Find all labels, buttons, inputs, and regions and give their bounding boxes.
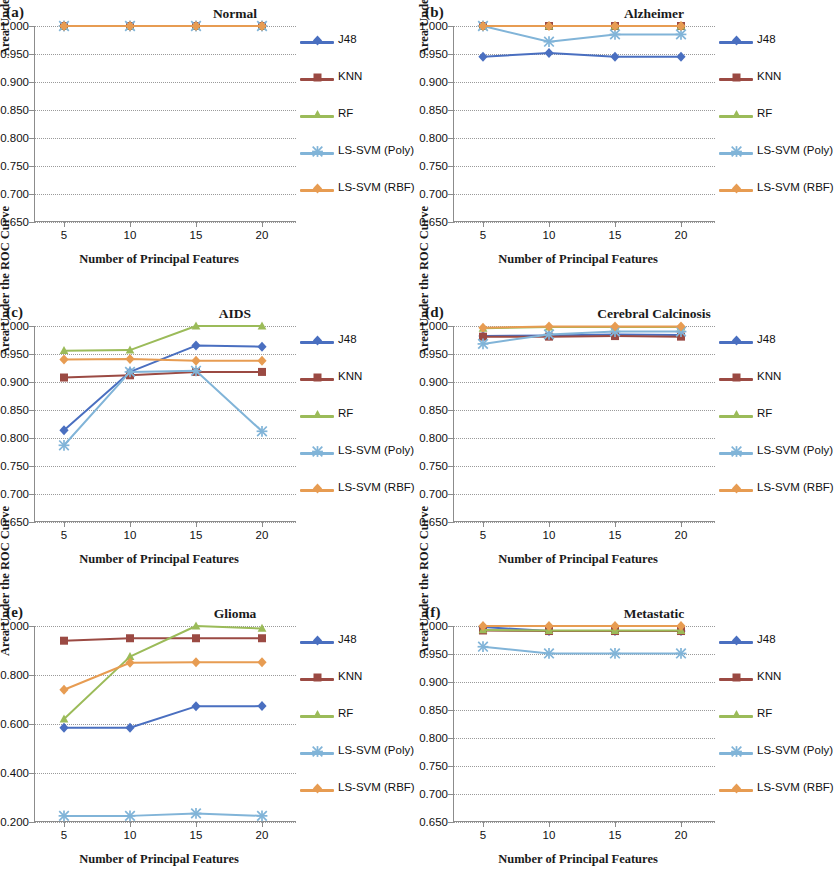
legend-label: RF	[338, 707, 353, 719]
y-tick-label: 0.950	[419, 648, 448, 660]
y-tick-mark	[29, 522, 35, 523]
legend-item-knn[interactable]: KNN	[300, 669, 418, 706]
legend-marker-triangle-icon	[731, 709, 742, 720]
series-knn	[60, 368, 266, 382]
legend-item-rf[interactable]: RF	[300, 106, 418, 143]
legend-item-knn[interactable]: KNN	[300, 369, 418, 406]
y-tick-label: 0.750	[0, 160, 29, 172]
legend-item-j48[interactable]: J48	[300, 632, 418, 669]
y-tick-label: 1.000	[419, 20, 448, 32]
y-tick-label: 0.800	[0, 432, 29, 444]
legend-item-ls-svm-poly[interactable]: LS-SVM (Poly)	[719, 143, 837, 180]
legend-item-rf[interactable]: RF	[300, 406, 418, 443]
legend-item-ls-svm-rbf[interactable]: LS-SVM (RBF)	[719, 180, 837, 217]
series-j48	[478, 48, 685, 62]
gridline	[34, 822, 296, 823]
legend-item-rf[interactable]: RF	[719, 406, 837, 443]
legend-item-rf[interactable]: RF	[719, 706, 837, 743]
series-j48	[59, 341, 266, 436]
legend-item-j48[interactable]: J48	[300, 32, 418, 69]
x-axis-label: Number of Principal Features	[447, 852, 709, 867]
x-tick-label: 20	[675, 829, 688, 841]
figure-sheet: (a)NormalArea Under the ROC Curve0.6500.…	[0, 0, 837, 893]
legend: J48KNNRFLS-SVM (Poly)LS-SVM (RBF)	[300, 332, 418, 517]
legend-label: RF	[338, 407, 353, 419]
y-tick-label: 0.650	[419, 816, 448, 828]
legend-label: KNN	[338, 670, 362, 682]
y-tick-mark	[448, 222, 454, 223]
plot-area: 0.2000.4000.6000.8001.0005101520	[34, 626, 290, 822]
plot-area: 0.6500.7000.7500.8000.8500.9000.9501.000…	[34, 26, 290, 222]
legend-item-knn[interactable]: KNN	[719, 69, 837, 106]
legend-item-j48[interactable]: J48	[719, 32, 837, 69]
y-tick-label: 0.950	[0, 48, 29, 60]
legend-marker-square-icon	[731, 72, 742, 83]
legend-label: KNN	[338, 70, 362, 82]
legend-marker-triangle-icon	[731, 109, 742, 120]
legend-item-ls-svm-rbf[interactable]: LS-SVM (RBF)	[300, 480, 418, 517]
legend-label: LS-SVM (Poly)	[338, 144, 414, 156]
y-tick-label: 0.800	[419, 132, 448, 144]
x-tick-label: 10	[124, 229, 137, 241]
x-tick-label: 10	[124, 529, 137, 541]
legend-marker-square-icon	[312, 672, 323, 683]
legend-item-ls-svm-rbf[interactable]: LS-SVM (RBF)	[719, 480, 837, 517]
y-tick-label: 0.800	[0, 669, 29, 681]
legend-label: LS-SVM (Poly)	[757, 444, 833, 456]
y-tick-label: 0.750	[419, 460, 448, 472]
legend-label: LS-SVM (Poly)	[757, 744, 833, 756]
legend-marker-diamond-icon	[312, 635, 323, 646]
legend-marker-diamond-icon	[731, 35, 742, 46]
y-tick-label: 0.900	[419, 676, 448, 688]
series-rf	[60, 621, 267, 722]
y-tick-label: 0.800	[0, 132, 29, 144]
legend-item-j48[interactable]: J48	[719, 332, 837, 369]
legend-item-ls-svm-poly[interactable]: LS-SVM (Poly)	[300, 743, 418, 780]
legend-marker-square-icon	[312, 72, 323, 83]
legend-item-ls-svm-rbf[interactable]: LS-SVM (RBF)	[300, 180, 418, 217]
legend-label: RF	[757, 107, 772, 119]
legend-item-knn[interactable]: KNN	[719, 669, 837, 706]
legend-item-rf[interactable]: RF	[300, 706, 418, 743]
legend-item-ls-svm-rbf[interactable]: LS-SVM (RBF)	[300, 780, 418, 817]
legend-label: J48	[757, 333, 776, 345]
y-tick-label: 0.900	[419, 76, 448, 88]
y-tick-label: 0.600	[0, 718, 29, 730]
legend-item-ls-svm-poly[interactable]: LS-SVM (Poly)	[300, 443, 418, 480]
y-tick-label: 0.950	[419, 48, 448, 60]
x-tick-label: 10	[543, 229, 556, 241]
panel-d: (d)Cerebral CalcinosisArea Under the ROC…	[419, 300, 837, 598]
legend-item-j48[interactable]: J48	[300, 332, 418, 369]
x-tick-label: 15	[609, 529, 622, 541]
legend-marker-diamond-icon	[312, 483, 323, 494]
y-axis-label: Area Under the ROC Curve	[0, 192, 16, 370]
series-layer	[453, 326, 709, 522]
legend-label: LS-SVM (RBF)	[757, 481, 834, 493]
legend-item-ls-svm-poly[interactable]: LS-SVM (Poly)	[719, 443, 837, 480]
legend-item-knn[interactable]: KNN	[300, 69, 418, 106]
y-tick-label: 0.700	[419, 788, 448, 800]
plot-area: 0.6500.7000.7500.8000.8500.9000.9501.000…	[34, 326, 290, 522]
y-tick-label: 0.850	[419, 104, 448, 116]
x-tick-label: 10	[124, 829, 137, 841]
legend: J48KNNRFLS-SVM (Poly)LS-SVM (RBF)	[719, 632, 837, 817]
y-tick-label: 0.950	[419, 348, 448, 360]
legend-item-ls-svm-rbf[interactable]: LS-SVM (RBF)	[719, 780, 837, 817]
x-tick-label: 5	[61, 829, 67, 841]
series-ls-svm-poly	[478, 641, 687, 659]
y-tick-label: 0.900	[0, 376, 29, 388]
series-layer	[453, 26, 709, 222]
x-tick-label: 15	[190, 829, 203, 841]
x-tick-label: 15	[609, 229, 622, 241]
x-tick-label: 5	[61, 529, 67, 541]
x-tick-label: 15	[190, 529, 203, 541]
legend-item-ls-svm-poly[interactable]: LS-SVM (Poly)	[300, 143, 418, 180]
legend-item-rf[interactable]: RF	[719, 106, 837, 143]
legend-item-knn[interactable]: KNN	[719, 369, 837, 406]
legend-item-ls-svm-poly[interactable]: LS-SVM (Poly)	[719, 743, 837, 780]
gridline	[34, 222, 296, 223]
y-tick-label: 0.900	[419, 376, 448, 388]
legend-item-j48[interactable]: J48	[719, 632, 837, 669]
legend-label: LS-SVM (RBF)	[338, 181, 415, 193]
legend-label: LS-SVM (RBF)	[757, 181, 834, 193]
